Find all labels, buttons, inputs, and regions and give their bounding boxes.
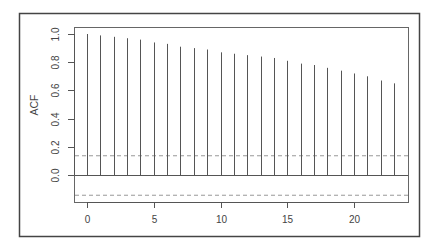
y-tick-label: 0.4 (50, 112, 61, 126)
x-tick-label: 15 (282, 214, 294, 225)
y-axis-title: ACF (28, 95, 40, 116)
acf-spikes (88, 34, 395, 175)
x-tick-label: 20 (349, 214, 361, 225)
x-tick-label: 0 (85, 214, 91, 225)
y-tick-label: 0.6 (50, 83, 61, 97)
y-tick-label: 0.8 (50, 55, 61, 69)
y-tick-label: 0.2 (50, 140, 61, 154)
outer-frame (20, 14, 420, 237)
y-tick-label: 1.0 (50, 27, 61, 41)
y-axis: 0.00.20.40.60.81.0 (50, 27, 75, 182)
y-tick-label: 0.0 (50, 168, 61, 182)
x-tick-label: 10 (216, 214, 228, 225)
x-tick-label: 5 (152, 214, 158, 225)
plot-box (75, 28, 409, 203)
acf-chart: 0.00.20.40.60.81.0 05101520 ACF (0, 0, 435, 247)
x-axis: 05101520 (85, 203, 361, 226)
